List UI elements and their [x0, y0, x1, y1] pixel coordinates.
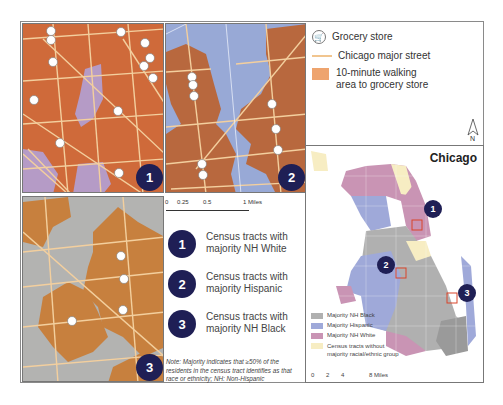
walk-area-swatch — [312, 68, 329, 80]
chicago-legend-item: Census tracts withoutmajority racial/eth… — [311, 342, 399, 358]
panel-badge-3: 3 — [136, 354, 163, 381]
map-panel-1-nh-white: 1 — [22, 23, 164, 193]
swatch-no-majority — [311, 343, 323, 349]
street-line-swatch — [312, 55, 332, 57]
legend-label: Chicago major street — [338, 50, 430, 61]
legend-label: Majority NH Black — [327, 312, 375, 318]
map-panel-3-nh-black: 3 — [22, 196, 164, 382]
desc-line: Census tracts with — [206, 311, 306, 323]
chicago-legend: Majority NH Black Majority Hispanic Majo… — [311, 312, 399, 361]
footnote: Note: Majority indicates that ≥50% of th… — [166, 358, 304, 384]
badge-2: 2 — [168, 270, 196, 298]
panel-badge-1: 1 — [136, 164, 163, 191]
scale-line — [166, 204, 249, 211]
swatch-nh-white — [311, 333, 323, 339]
swatch-hispanic — [311, 323, 323, 329]
desc-line: majority Hispanic — [206, 283, 306, 295]
legend-label: Grocery store — [332, 31, 393, 42]
chicago-legend-item: Majority NH Black — [311, 312, 399, 319]
desc-line: Census tracts with — [206, 231, 306, 243]
north-label: N — [470, 135, 475, 142]
north-arrow-icon: N — [465, 118, 481, 146]
map-panel-2-hispanic: 2 — [165, 23, 306, 193]
desc-line: majority NH White — [206, 243, 306, 255]
chicago-marker-1: 1 — [424, 200, 442, 218]
legend-label-line2: majority racial/ethnic group — [327, 350, 399, 358]
swatch-nh-black — [311, 313, 323, 319]
legend-label-line1: Census tracts without — [327, 342, 399, 350]
badge-3: 3 — [168, 310, 196, 338]
panel-badge-2: 2 — [278, 164, 305, 191]
legend-label: Majority Hispanic — [327, 322, 373, 328]
desc-line: majority NH Black — [206, 323, 306, 335]
chicago-legend-item: Majority NH White — [311, 332, 399, 339]
legend-label-line1: 10-minute walking — [336, 67, 428, 79]
scale-line — [312, 377, 374, 383]
legend-label-line2: area to grocery store — [336, 79, 428, 91]
badge-1: 1 — [168, 230, 196, 258]
grocery-cart-icon: 🛒 — [312, 30, 326, 44]
chicago-legend-item: Majority Hispanic — [311, 322, 399, 329]
chicago-overview-map: Chicago 1 2 3 Majority NH Black Majority… — [305, 145, 484, 383]
legend-item-walking-area: 10-minute walking area to grocery store — [312, 67, 430, 91]
chicago-marker-2: 2 — [377, 256, 395, 274]
map-legend: 🛒 Grocery store Chicago major street 10-… — [312, 30, 430, 97]
chicago-marker-3: 3 — [458, 284, 476, 302]
desc-line: Census tracts with — [206, 271, 306, 283]
legend-item-grocery-store: 🛒 Grocery store — [312, 30, 430, 44]
legend-label: Majority NH White — [327, 332, 375, 338]
legend-item-major-street: Chicago major street — [312, 50, 430, 61]
